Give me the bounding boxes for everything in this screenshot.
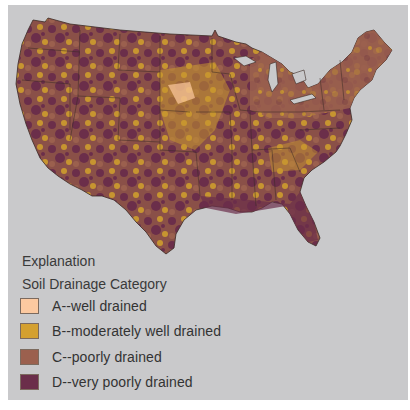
legend-subheading: Soil Drainage Category (22, 276, 167, 292)
swatch-a-icon (20, 298, 39, 314)
swatch-d-icon (20, 374, 39, 390)
us-soil-drainage-map (0, 0, 410, 270)
legend-label-d: D--very poorly drained (52, 374, 193, 390)
swatch-b-icon (20, 323, 39, 339)
swatch-c-icon (20, 349, 39, 365)
legend-label-c: C--poorly drained (52, 349, 162, 365)
legend-item-a: A--well drained (20, 297, 147, 315)
legend-heading: Explanation (22, 253, 95, 269)
legend-label-b: B--moderately well drained (52, 323, 221, 339)
legend-label-a: A--well drained (52, 298, 147, 314)
legend-item-b: B--moderately well drained (20, 322, 221, 340)
legend-item-c: C--poorly drained (20, 348, 162, 366)
legend-item-d: D--very poorly drained (20, 373, 193, 391)
